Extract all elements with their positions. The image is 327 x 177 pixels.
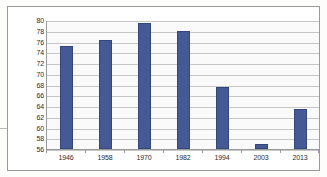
gridline xyxy=(47,21,319,22)
x-axis-tick-mark xyxy=(85,150,86,153)
y-axis-tick-label: 58 xyxy=(22,135,44,142)
y-axis-tick-label: 80 xyxy=(22,17,44,24)
bar xyxy=(138,23,151,149)
bar xyxy=(177,31,190,149)
y-axis-tick-label: 62 xyxy=(22,114,44,121)
x-axis-tick-label: 2013 xyxy=(284,154,316,162)
x-axis-tick-mark xyxy=(124,150,125,153)
x-axis-tick-label: 1970 xyxy=(128,154,160,162)
chart-frame: 80787674727068666462605856 1946195819701… xyxy=(7,6,320,171)
bar xyxy=(216,87,229,149)
bar xyxy=(99,40,112,149)
bar xyxy=(294,109,307,149)
y-axis-tick-label: 70 xyxy=(22,71,44,78)
x-axis-tick-mark xyxy=(46,150,47,153)
x-axis-tick-mark xyxy=(202,150,203,153)
x-axis-tick-label: 1958 xyxy=(89,154,121,162)
y-axis-tick-label: 76 xyxy=(22,39,44,46)
bar-chart-figure: 80787674727068666462605856 1946195819701… xyxy=(0,0,327,177)
x-axis-tick-label: 2003 xyxy=(245,154,277,162)
y-axis-tick-labels: 80787674727068666462605856 xyxy=(18,21,44,150)
x-axis-tick-mark xyxy=(318,150,319,153)
bar xyxy=(255,144,268,149)
y-axis-tick-label: 64 xyxy=(22,103,44,110)
bar xyxy=(60,46,73,149)
x-axis-tick-label: 1994 xyxy=(206,154,238,162)
plot-area xyxy=(46,21,319,150)
y-axis-tick-label: 66 xyxy=(22,92,44,99)
y-axis-tick-label: 72 xyxy=(22,60,44,67)
x-axis-tick-label: 1982 xyxy=(167,154,199,162)
y-axis-tick-label: 56 xyxy=(22,146,44,153)
x-axis-tick-mark xyxy=(241,150,242,153)
x-axis-tick-label: 1946 xyxy=(50,154,82,162)
y-axis-tick-label: 78 xyxy=(22,28,44,35)
x-axis-tick-mark xyxy=(280,150,281,153)
y-axis-tick-label: 74 xyxy=(22,49,44,56)
y-axis-tick-label: 60 xyxy=(22,125,44,132)
x-axis-tick-mark xyxy=(163,150,164,153)
y-axis-tick-label: 68 xyxy=(22,82,44,89)
